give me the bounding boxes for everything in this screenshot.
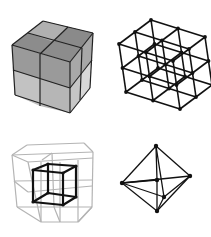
lattice-node bbox=[149, 18, 153, 22]
lattice-node bbox=[151, 99, 155, 103]
octahedron-node-right bbox=[188, 174, 192, 178]
inner-cube-node bbox=[74, 164, 77, 167]
inner-cube-node bbox=[31, 168, 34, 171]
lattice-node bbox=[144, 51, 148, 55]
lattice-node bbox=[167, 87, 171, 91]
octahedron-node-left bbox=[120, 181, 124, 185]
lattice-node bbox=[137, 54, 141, 58]
lattice-node bbox=[176, 27, 180, 31]
lattice-node bbox=[175, 83, 179, 87]
lattice-node bbox=[133, 30, 137, 34]
lattice-node bbox=[121, 66, 125, 70]
lattice-node bbox=[178, 107, 182, 111]
lattice-node bbox=[194, 95, 198, 99]
lattice-node bbox=[160, 39, 164, 43]
octahedron-node-bottom bbox=[155, 209, 159, 213]
lattice-node bbox=[187, 47, 191, 51]
inner-cube-node bbox=[74, 195, 77, 198]
inner-cube-node bbox=[61, 171, 64, 174]
lattice-node bbox=[191, 71, 195, 75]
lattice-node bbox=[171, 59, 175, 63]
lattice-node bbox=[203, 35, 207, 39]
lattice-node bbox=[156, 66, 160, 70]
octahedron-node-front bbox=[162, 195, 166, 199]
octahedron-node-center bbox=[155, 178, 159, 182]
inner-cube-node bbox=[31, 200, 34, 203]
lattice-node bbox=[183, 75, 187, 79]
lattice-node bbox=[124, 90, 128, 94]
polyhedra-figure bbox=[0, 0, 211, 237]
lattice-node bbox=[140, 78, 144, 82]
lattice-node bbox=[148, 75, 152, 79]
octahedron-node-top bbox=[154, 144, 158, 148]
inner-cube-node bbox=[61, 203, 64, 206]
lattice-node bbox=[153, 42, 157, 46]
lattice-node bbox=[207, 59, 211, 63]
inner-cube-node bbox=[46, 162, 49, 165]
lattice-node bbox=[180, 51, 184, 55]
lattice-node bbox=[117, 42, 121, 46]
lattice-node bbox=[164, 63, 168, 67]
inner-cube-node bbox=[46, 191, 49, 194]
